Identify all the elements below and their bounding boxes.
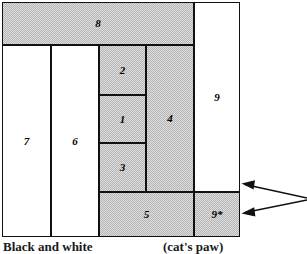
packed-rect-2: 2	[99, 45, 146, 95]
rect-label-1: 1	[120, 114, 126, 125]
packed-rect-3: 3	[99, 143, 146, 192]
packed-rect-9-star: 9*	[194, 192, 240, 237]
packed-rect-7: 7	[2, 45, 51, 237]
packed-rect-5: 5	[99, 192, 194, 237]
figure-caption: Black and white (cat's paw)	[0, 239, 307, 254]
packed-rect-4: 4	[146, 45, 194, 192]
rect-label-2: 2	[120, 65, 126, 76]
rect-label-3: 3	[120, 162, 126, 173]
rectangle-packing-diagram: 8 7 6 2 1 3 4 5 9 9*	[0, 0, 307, 240]
packed-rect-1: 1	[99, 95, 146, 143]
rect-label-6: 6	[72, 136, 78, 147]
rect-label-4: 4	[167, 113, 173, 124]
packed-rect-8: 8	[2, 2, 194, 45]
caption-right-text: (cat's paw)	[163, 239, 223, 254]
packed-rect-9: 9	[194, 2, 240, 192]
rect-label-5: 5	[144, 209, 150, 220]
rect-label-8: 8	[95, 18, 101, 29]
packed-rect-6: 6	[51, 45, 99, 237]
rect-label-9: 9	[214, 92, 220, 103]
caption-left-text: Black and white	[3, 239, 93, 254]
rect-label-9-star: 9*	[212, 209, 223, 220]
figure-root: 8 7 6 2 1 3 4 5 9 9*	[0, 0, 307, 254]
rect-label-7: 7	[24, 136, 30, 147]
